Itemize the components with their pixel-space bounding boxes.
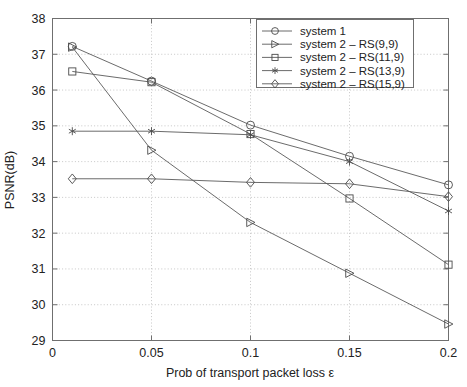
y-tick-label: 29 bbox=[32, 334, 46, 348]
legend-label: system 2 – RS(13,9) bbox=[300, 65, 405, 77]
y-tick-label: 37 bbox=[32, 48, 46, 62]
legend-label: system 2 – RS(11,9) bbox=[300, 51, 404, 63]
legend-label: system 2 – RS(15,9) bbox=[300, 78, 405, 90]
y-axis-title: PSNR(dB) bbox=[3, 151, 17, 209]
legend[interactable]: system 1system 2 – RS(9,9)system 2 – RS(… bbox=[257, 20, 414, 90]
y-tick-label: 32 bbox=[32, 227, 46, 241]
y-tick-label: 38 bbox=[32, 12, 46, 26]
x-tick-label: 0.15 bbox=[337, 346, 361, 360]
x-tick-label: 0 bbox=[49, 346, 56, 360]
x-tick-label: 0.2 bbox=[440, 346, 457, 360]
y-tick-label: 36 bbox=[32, 84, 46, 98]
legend-label: system 1 bbox=[300, 25, 346, 37]
psnr-vs-packet-loss-chart: 00.050.10.150.2 29303132333435363738 Pro… bbox=[0, 0, 467, 387]
y-tick-label: 33 bbox=[32, 191, 46, 205]
legend-label: system 2 – RS(9,9) bbox=[300, 38, 399, 50]
y-tick-label: 31 bbox=[32, 262, 46, 276]
x-tick-label: 0.05 bbox=[139, 346, 163, 360]
y-tick-label: 30 bbox=[32, 298, 46, 312]
y-tick-label: 35 bbox=[32, 119, 46, 133]
x-tick-label: 0.1 bbox=[242, 346, 259, 360]
x-axis-title: Prob of transport packet loss ε bbox=[166, 366, 335, 380]
y-tick-label: 34 bbox=[32, 155, 46, 169]
